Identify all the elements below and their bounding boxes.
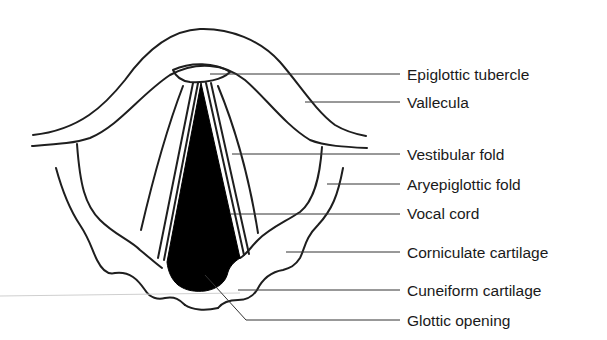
scan-artifact-line [0,293,240,296]
label-epiglottic-tubercle: Epiglottic tubercle [407,66,529,83]
posterior-commissure-outline [185,305,218,310]
label-vallecula: Vallecula [407,94,469,111]
label-cuneiform-cartilage: Cuneiform cartilage [407,282,541,299]
label-vestibular-fold: Vestibular fold [407,146,504,163]
label-glottic-opening: Glottic opening [407,312,510,329]
label-aryepiglottic-fold: Aryepiglottic fold [407,176,521,193]
leader-glottic-opening [205,275,400,320]
right-cartilage-outline [218,168,343,308]
epiglottic-tubercle-shape [173,64,230,82]
left-aryepiglottic-fold-outline [77,144,162,268]
larynx-diagram: Epiglottic tubercle Vallecula Vestibular… [0,0,607,340]
label-vocal-cord: Vocal cord [407,205,479,222]
label-corniculate-cartilage: Corniculate cartilage [407,244,548,261]
